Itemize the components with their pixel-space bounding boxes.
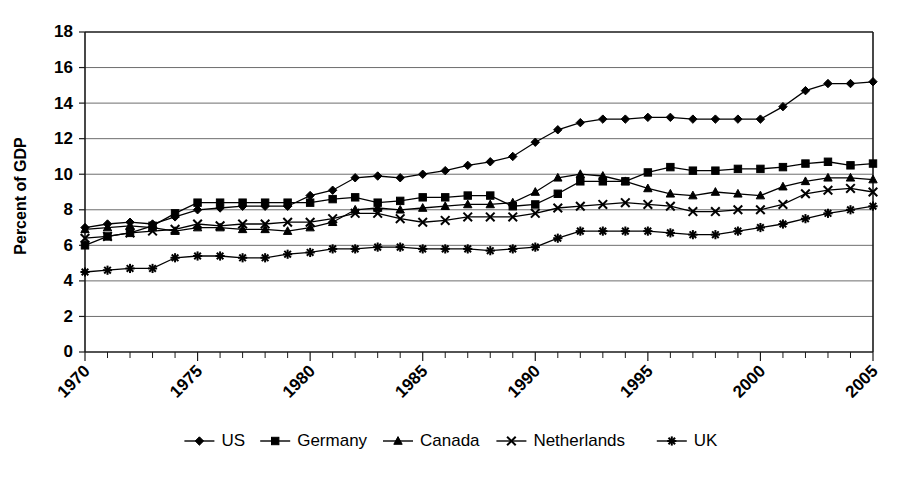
y-axis-title-group: Percent of GDP: [12, 137, 29, 255]
data-point: [576, 118, 584, 126]
data-point: [418, 244, 427, 253]
legend-marker-icon: [667, 436, 676, 445]
y-axis-title: Percent of GDP: [12, 137, 29, 255]
legend-label: Canada: [420, 431, 480, 450]
data-point: [846, 79, 854, 87]
data-point: [644, 169, 651, 176]
data-point: [554, 126, 562, 134]
data-point: [689, 115, 697, 123]
data-point: [553, 234, 562, 243]
series-line: [85, 82, 873, 228]
data-point: [509, 152, 517, 160]
legend-label: Netherlands: [533, 431, 625, 450]
data-point: [846, 205, 855, 214]
data-point: [397, 197, 404, 204]
x-tick-label: 1980: [279, 361, 319, 401]
data-point: [711, 230, 720, 239]
data-point: [464, 192, 471, 199]
data-point: [531, 138, 539, 146]
plot-frame: [85, 32, 873, 352]
data-point: [801, 214, 810, 223]
x-tick-label: 1995: [617, 361, 657, 401]
legend-item-uk[interactable]: UK: [657, 431, 718, 450]
data-point: [756, 115, 764, 123]
data-point: [441, 244, 450, 253]
data-point: [441, 166, 449, 174]
data-point: [531, 188, 539, 196]
data-point: [711, 188, 719, 196]
data-point: [419, 170, 427, 178]
data-point: [734, 115, 742, 123]
data-point: [351, 194, 358, 201]
x-tick-label: 1990: [504, 361, 544, 401]
data-point: [802, 160, 809, 167]
y-tick-label: 16: [54, 58, 73, 77]
x-tick-label: 1975: [166, 361, 206, 401]
legend-label: Germany: [297, 431, 367, 450]
chart-legend: USGermanyCanadaNetherlandsUK: [184, 431, 718, 450]
data-point: [688, 230, 697, 239]
legend-item-germany[interactable]: Germany: [260, 431, 367, 450]
legend-item-netherlands[interactable]: Netherlands: [496, 431, 625, 450]
data-point: [80, 267, 89, 276]
legend-marker-icon: [272, 437, 279, 444]
data-point: [306, 248, 315, 257]
data-point: [239, 199, 246, 206]
legend-marker-icon: [195, 437, 203, 445]
data-point: [734, 165, 741, 172]
data-point: [779, 200, 788, 209]
data-point: [419, 194, 426, 201]
data-point: [532, 201, 539, 208]
data-point: [868, 202, 877, 211]
y-tick-label: 18: [54, 22, 73, 41]
data-point: [373, 172, 381, 180]
x-axis-ticks: [85, 352, 873, 361]
data-point: [621, 227, 630, 236]
data-point: [621, 115, 629, 123]
data-point: [644, 113, 652, 121]
y-tick-label: 10: [54, 165, 73, 184]
series-line: [85, 206, 873, 272]
data-point: [508, 244, 517, 253]
series-germany: [81, 158, 876, 249]
data-series-layer: [80, 78, 877, 277]
data-point: [531, 243, 540, 252]
line-chart: Percent of GDP 024681012141618 197019751…: [0, 0, 897, 481]
data-point: [148, 264, 157, 273]
data-point: [261, 199, 268, 206]
legend-item-us[interactable]: US: [184, 431, 245, 450]
data-point: [328, 186, 336, 194]
data-point: [170, 253, 179, 262]
data-point: [756, 223, 765, 232]
data-point: [125, 264, 134, 273]
y-tick-label: 14: [54, 94, 73, 113]
data-point: [284, 199, 291, 206]
legend-label: US: [221, 431, 245, 450]
data-point: [81, 242, 88, 249]
x-tick-label: 1970: [54, 361, 94, 401]
data-point: [779, 163, 786, 170]
data-point: [576, 170, 584, 178]
data-point: [215, 251, 224, 260]
data-point: [667, 163, 674, 170]
y-axis-ticks: [79, 32, 85, 352]
data-point: [869, 160, 876, 167]
data-point: [689, 167, 696, 174]
data-point: [847, 162, 854, 169]
y-tick-label: 0: [64, 342, 73, 361]
y-tick-label: 12: [54, 129, 73, 148]
series-netherlands: [81, 184, 878, 242]
data-point: [823, 209, 832, 218]
data-point: [779, 102, 787, 110]
data-point: [576, 227, 585, 236]
data-point: [464, 161, 472, 169]
data-point: [824, 79, 832, 87]
grid-lines: [85, 68, 873, 317]
data-point: [351, 244, 360, 253]
legend-item-canada[interactable]: Canada: [383, 431, 480, 450]
data-point: [486, 246, 495, 255]
data-point: [283, 250, 292, 259]
y-axis-tick-labels: 024681012141618: [54, 22, 73, 361]
data-point: [194, 199, 201, 206]
series-us: [81, 78, 877, 232]
